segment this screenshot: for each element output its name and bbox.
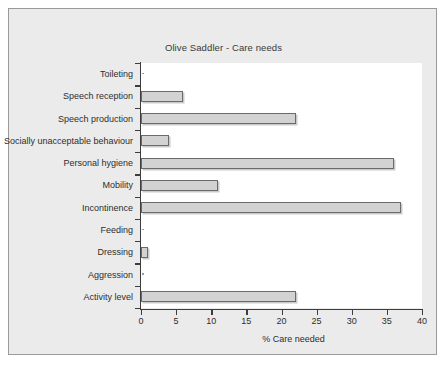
x-axis-tick-label: 10 <box>196 316 226 326</box>
x-axis-tick-label: 40 <box>407 316 437 326</box>
bar-dressing <box>141 247 148 258</box>
x-tick <box>211 309 212 315</box>
y-axis-label-speech-production: Speech production <box>0 113 133 124</box>
x-axis-tick-label: 20 <box>267 316 297 326</box>
y-tick <box>135 286 141 287</box>
x-axis-tick-label: 30 <box>337 316 367 326</box>
x-tick <box>352 309 353 315</box>
bar-incontinence <box>141 202 401 213</box>
category-row: Speech reception <box>9 85 438 107</box>
x-tick <box>422 309 423 315</box>
bar-mobility <box>141 180 218 191</box>
y-tick <box>135 108 141 109</box>
zero-value-marker <box>142 273 144 275</box>
x-axis-tick-label: 35 <box>372 316 402 326</box>
x-tick <box>282 309 283 315</box>
y-tick <box>135 263 141 264</box>
y-tick <box>135 308 141 309</box>
x-tick <box>246 309 247 315</box>
bar-speech-reception <box>141 91 183 102</box>
y-axis-label-feeding: Feeding <box>0 225 133 236</box>
x-axis-tick-label: 5 <box>161 316 191 326</box>
y-axis-label-personal-hygiene: Personal hygiene <box>0 158 133 169</box>
y-axis-label-speech-reception: Speech reception <box>0 91 133 102</box>
chart-title: Olive Saddler - Care needs <box>9 42 438 53</box>
x-tick <box>141 309 142 315</box>
x-axis-tick-label: 15 <box>231 316 261 326</box>
category-row: Mobility <box>9 174 438 196</box>
x-axis-title: % Care needed <box>9 334 438 344</box>
category-row: Socially unacceptable behaviour <box>9 130 438 152</box>
bar-activity-level <box>141 291 296 302</box>
x-tick <box>387 309 388 315</box>
bar-personal-hygiene <box>141 158 394 169</box>
y-tick <box>135 63 141 64</box>
y-tick <box>135 152 141 153</box>
bar-speech-production <box>141 113 296 124</box>
zero-value-marker <box>142 73 144 75</box>
category-row: Aggression <box>9 263 438 285</box>
category-row: Toileting <box>9 63 438 85</box>
y-tick <box>135 174 141 175</box>
zero-value-marker <box>142 229 144 231</box>
y-tick <box>135 241 141 242</box>
chart-figure: Olive Saddler - Care needs ToiletingSpee… <box>8 8 437 355</box>
y-tick <box>135 85 141 86</box>
y-tick <box>135 130 141 131</box>
category-row: Dressing <box>9 241 438 263</box>
bar-aggression <box>141 269 143 280</box>
y-axis-label-dressing: Dressing <box>0 247 133 258</box>
y-axis-label-incontinence: Incontinence <box>0 203 133 214</box>
x-tick <box>317 309 318 315</box>
bar-socially-unacceptable-behaviour <box>141 135 169 146</box>
bar-feeding <box>141 225 143 236</box>
x-axis-tick-label: 25 <box>302 316 332 326</box>
y-axis-label-aggression: Aggression <box>0 269 133 280</box>
y-tick <box>135 197 141 198</box>
x-axis-tick-label: 0 <box>126 316 156 326</box>
y-axis-label-socially-unacceptable-behaviour: Socially unacceptable behaviour <box>0 136 133 146</box>
y-axis-label-activity-level: Activity level <box>0 292 133 303</box>
y-axis-label-mobility: Mobility <box>0 180 133 191</box>
y-axis-label-toileting: Toileting <box>0 69 133 80</box>
bar-toileting <box>141 69 143 80</box>
y-tick <box>135 219 141 220</box>
category-row: Feeding <box>9 219 438 241</box>
x-tick <box>176 309 177 315</box>
